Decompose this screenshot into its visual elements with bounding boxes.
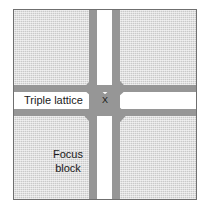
- horizontal-rail-top: [13, 85, 197, 92]
- focus-block-label-line1: Focus: [45, 147, 91, 161]
- crossing-label: X: [99, 95, 111, 106]
- horizontal-rail-bottom: [13, 109, 197, 116]
- lattice-diagram: Triple lattice X Focus block: [13, 9, 197, 200]
- figure-caption: [4, 203, 205, 216]
- focus-block-label: Focus block: [45, 147, 91, 175]
- triple-lattice-label: Triple lattice: [24, 94, 83, 107]
- focus-block-label-line2: block: [45, 161, 91, 175]
